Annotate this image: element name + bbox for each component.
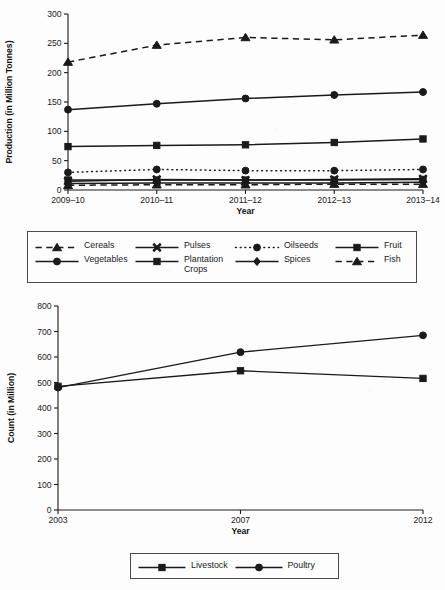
production-legend-item-spices[interactable]: Spices [235,254,335,275]
legend-item-label: Spices [284,254,310,265]
y-tick-label: 0 [47,505,52,515]
axes [58,306,423,510]
legend-marker [154,258,160,264]
legend-item-label: Plantation Crops [184,254,223,275]
x-tick-label: 2011–12 [229,195,262,205]
x-axis-ticks: 200320072012 [48,510,432,525]
legend-swatch-triangle-dashed [35,242,79,253]
legend-swatch-circle-dotted [235,242,279,253]
y-tick-label: 500 [37,378,52,388]
legend-marker [254,244,261,251]
livestock-poultry-chart-canvas: 0100200300400500600700800200320072012Yea… [0,292,445,547]
x-tick-label: 2007 [231,515,250,525]
livestock-poultry-chart-legend: LivestockPoultry [130,553,339,579]
series-oilseeds [65,166,427,176]
legend-item-label: Livestock [191,560,228,571]
y-tick-label: 50 [52,156,62,166]
production-chart-legend: CerealsPulsesOilseedsFruitVegetablesPlan… [27,231,417,283]
data-point-marker [242,142,248,148]
data-point-marker [153,166,160,173]
legend-item-label: Vegetables [84,254,128,265]
data-point-marker [65,169,72,176]
y-tick-label: 250 [47,38,62,48]
x-axis-ticks: 2009–102010–112011–122012–132013–14 [51,190,440,205]
data-point-marker [420,332,427,339]
legend-swatch-circle-solid [235,562,283,573]
legend-item-label: Fruit [384,240,402,251]
data-point-marker [65,106,72,113]
legend-swatch-circle-solid [35,256,79,267]
data-point-marker [420,89,427,96]
production-legend-item-fruit[interactable]: Fruit [335,240,419,253]
data-point-marker [331,92,338,99]
production-legend-item-oilseeds[interactable]: Oilseeds [235,240,335,253]
data-point-marker [420,375,426,381]
y-tick-label: 400 [37,403,52,413]
production-legend-item-pulses[interactable]: Pulses [135,240,235,253]
legend-marker [255,564,262,571]
legend-item-label: Oilseeds [284,240,318,251]
legend-swatch-square-solid [335,242,379,253]
y-tick-label: 800 [37,301,52,311]
legend-swatch-x-solid [135,242,179,253]
production-chart-canvas: 0501001502002503002009–102010–112011–122… [0,0,445,228]
data-point-marker [237,368,243,374]
data-point-marker [242,167,249,174]
x-axis-title: Year [231,526,250,536]
y-axis-title: Count (in Million) [6,373,16,443]
x-tick-label: 2003 [48,515,67,525]
y-tick-label: 200 [37,454,52,464]
y-axis-title: Production (in Million Tonnes) [4,40,14,163]
data-point-marker [152,41,161,48]
data-point-marker [331,167,338,174]
livestock-legend-item-livestock[interactable]: Livestock [138,560,228,573]
data-point-marker [65,143,71,149]
legend-swatch-square-solid [138,562,186,573]
legend-swatch-square-solid [135,256,179,267]
legend-marker [159,564,165,570]
data-point-marker [154,142,160,148]
production-legend-item-fish[interactable]: Fish [335,254,419,275]
series-fish [64,180,428,189]
series-livestock [55,368,426,390]
y-tick-label: 300 [37,429,52,439]
data-point-marker [153,100,160,107]
x-tick-label: 2013–14 [406,195,440,205]
data-point-marker [420,136,426,142]
legend-marker [54,258,61,265]
legend-swatch-triangle-dashed [335,256,379,267]
series-fruit [65,136,426,150]
y-tick-label: 200 [47,68,62,78]
series-cereals [64,31,428,65]
data-point-marker [55,384,62,391]
x-tick-label: 2012–13 [318,195,352,205]
x-axis-title: Year [236,206,255,216]
series-line [58,335,423,387]
y-tick-label: 100 [47,126,62,136]
legend-item-label: Cereals [84,240,114,251]
y-tick-label: 100 [37,480,52,490]
data-point-marker [419,31,428,38]
legend-item-label: Poultry [288,560,315,571]
y-axis-ticks: 050100150200250300 [47,9,68,195]
figure-page: 0501001502002503002009–102010–112011–122… [0,0,445,590]
data-point-marker [242,95,249,102]
x-tick-label: 2009–10 [51,195,85,205]
data-point-marker [237,349,244,356]
data-point-marker [331,139,337,145]
legend-item-label: Fish [384,254,401,265]
y-axis-ticks: 0100200300400500600700800 [37,301,58,515]
livestock-legend-item-poultry[interactable]: Poultry [235,560,315,573]
series-vegetables [65,89,427,114]
x-tick-label: 2012 [413,515,432,525]
production-legend-item-plantation-crops[interactable]: Plantation Crops [135,254,235,275]
x-tick-label: 2010–11 [140,195,173,205]
production-legend-item-vegetables[interactable]: Vegetables [35,254,135,275]
livestock-poultry-chart: 0100200300400500600700800200320072012Yea… [0,292,445,547]
y-tick-label: 0 [57,185,62,195]
data-point-marker [420,166,427,173]
y-tick-label: 150 [47,97,62,107]
production-legend-item-cereals[interactable]: Cereals [35,240,135,253]
production-chart: 0501001502002503002009–102010–112011–122… [0,0,445,228]
legend-marker [354,244,360,250]
